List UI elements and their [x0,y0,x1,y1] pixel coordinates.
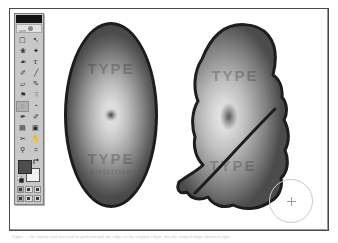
type-tool[interactable]: T [29,57,42,68]
full-screen-mode[interactable] [34,195,41,202]
paintbrush-tool-icon: ✐ [20,70,26,77]
tool-grid: ▢↖❀✦☙T✐╱▱✎⚑☟◌◔✒✐▤▣✂✋⚲⌗ [16,35,42,156]
smudge-tool-icon: ☟ [34,92,38,99]
standard-mask-mode-icon [19,188,22,191]
blur-tool[interactable]: ◌ [16,101,29,112]
lasso-tool-icon: ❀ [20,48,26,55]
move-tool[interactable]: ↖ [29,35,42,46]
rubber-stamp-tool[interactable]: ⚑ [16,90,29,101]
dodge-tool-icon: ◔ [33,103,37,110]
pen-tool[interactable]: ✒ [16,112,29,123]
toolbox-logo[interactable] [16,24,42,33]
color-swatches[interactable] [17,159,41,183]
logo-eye-icon [28,26,33,31]
pen-tool-icon: ✒ [20,114,26,121]
zoom-tool[interactable]: ⚲ [16,145,29,156]
airbrush-tool[interactable]: ☙ [16,57,29,68]
rubber-stamp-tool-icon: ⚑ [20,92,26,99]
paintbrush-tool[interactable]: ✐ [16,68,29,79]
figure-caption: Figure — the liquify tool was used to pu… [12,234,326,241]
crop-tool-icon: ⌗ [34,147,38,154]
hand-tool-icon: ✋ [31,136,40,143]
line-tool[interactable]: ╱ [29,68,42,79]
screen-mode-buttons [17,195,41,202]
pencil-tool[interactable]: ✎ [29,79,42,90]
quick-mask-mode[interactable] [25,186,32,193]
eraser-tool-icon: ▱ [20,81,25,88]
swap-colors-icon[interactable] [33,158,41,166]
edit-mask-mode[interactable] [34,186,41,193]
artwork-canvas[interactable]: TYPE TYPE distortion [10,9,328,230]
standard-mask-mode[interactable] [17,186,24,193]
paint-bucket-tool[interactable]: ▣ [29,123,42,134]
edit-mask-mode-icon [36,188,39,191]
gradient-tool[interactable]: ▤ [16,123,29,134]
marquee-tool[interactable]: ▢ [16,35,29,46]
magic-wand-tool-icon: ✦ [33,48,39,55]
eyedropper-tool-icon: ✂ [20,136,26,143]
eraser-tool[interactable]: ▱ [16,79,29,90]
standard-screen-mode-icon [19,197,22,200]
foreground-color-swatch[interactable] [18,160,32,174]
quick-mask-mode-icon [27,188,30,191]
default-colors-icon[interactable] [17,176,24,183]
magic-wand-tool[interactable]: ✦ [29,46,42,57]
zoom-tool-icon: ⚲ [20,147,25,154]
type-tool-icon: T [33,59,37,66]
toolbox-palette[interactable]: ▢↖❀✦☙T✐╱▱✎⚑☟◌◔✒✐▤▣✂✋⚲⌗ [14,13,44,205]
full-screen-mode-icon [36,197,39,200]
line-tool-icon: ╱ [34,70,38,77]
brush-cursor-crosshair-v [291,197,292,206]
measure-tool[interactable]: ✐ [29,112,42,123]
mask-mode-buttons [17,186,41,193]
measure-tool-icon: ✐ [33,114,39,121]
airbrush-tool-icon: ☙ [20,59,26,66]
eyedropper-tool[interactable]: ✂ [16,134,29,145]
dodge-tool[interactable]: ◔ [29,101,42,112]
marquee-tool-icon: ▢ [19,37,26,44]
blur-tool-icon: ◌ [20,103,24,110]
full-screen-menubar-icon [27,197,30,200]
toolbox-titlebar[interactable] [16,15,42,23]
crop-tool[interactable]: ⌗ [29,145,42,156]
gradient-tool-icon: ▤ [19,125,26,132]
brush-cursor [269,179,313,223]
original-ellipse[interactable]: TYPE TYPE distortion [64,22,158,208]
screenshot-page: TYPE TYPE distortion [0,0,338,243]
full-screen-menubar[interactable] [25,195,32,202]
logo-bar-icon [19,30,26,32]
move-tool-icon: ↖ [33,37,39,44]
original-ellipse-fill [64,22,158,208]
smudge-tool[interactable]: ☟ [29,90,42,101]
paint-bucket-tool-icon: ▣ [32,125,39,132]
lasso-tool[interactable]: ❀ [16,46,29,57]
hand-tool[interactable]: ✋ [29,134,42,145]
standard-screen-mode[interactable] [17,195,24,202]
liquified-watermark-top: TYPE [211,67,258,84]
pencil-tool-icon: ✎ [33,81,39,88]
